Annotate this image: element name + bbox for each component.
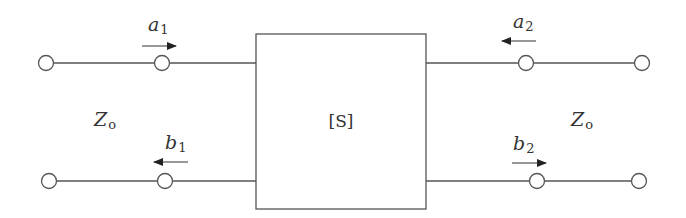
b2-label: b2 [513,132,534,156]
terminal-circle [519,56,534,71]
s-matrix-label: [S] [329,111,354,131]
a1-label: a1 [148,13,169,37]
terminal-circle [155,56,170,71]
terminal-circle [158,174,173,189]
port1-bottom-line [42,174,257,189]
terminal-circle [42,174,57,189]
two-port-diagram: [S] a1 b1 a2 b2 Zo Zo [0,0,686,218]
terminal-circle [39,56,54,71]
b1-label: b1 [165,131,186,155]
impedance-left-label: Zo [93,108,116,132]
terminal-circle [632,174,647,189]
impedance-right-label: Zo [570,108,593,132]
terminal-circle [530,174,545,189]
a2-label: a2 [513,10,534,34]
port2-top-line [426,56,650,71]
port1-top-line [39,56,257,71]
port2-bottom-line [426,174,647,189]
terminal-circle [635,56,650,71]
diagram-svg: [S] a1 b1 a2 b2 Zo Zo [0,0,686,218]
